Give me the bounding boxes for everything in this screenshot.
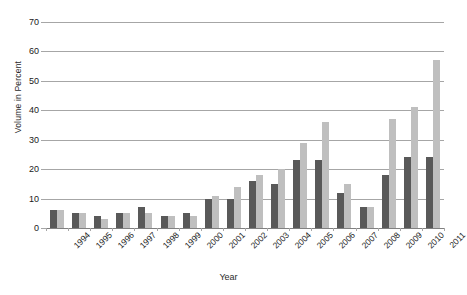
bar-group [333,22,355,228]
x-axis-tick-mark [68,228,69,231]
y-axis-title: Volume in Percent [13,27,23,167]
x-axis-tick-label: 1994 [72,230,92,250]
bar [168,216,175,228]
bar [94,216,101,228]
bar [433,60,440,228]
x-axis-tick-label: 2011 [447,230,467,250]
x-axis-tick-label: 2006 [337,230,357,250]
bar [190,216,197,228]
y-axis-tick-label: 60 [29,46,39,56]
x-axis-tick-label: 2001 [226,230,246,250]
bar-group [157,22,179,228]
y-axis-tick-label: 30 [29,135,39,145]
x-axis-tick-label: 1999 [182,230,202,250]
y-axis-tick-label: 20 [29,164,39,174]
y-axis-tick-label: 70 [29,17,39,27]
bar [57,210,64,228]
bar-group [134,22,156,228]
bar-group [311,22,333,228]
x-axis-tick-mark [422,228,423,231]
x-axis-tick-mark [46,228,47,231]
x-axis-tick-label: 2003 [271,230,291,250]
x-axis-tick-label: 2008 [381,230,401,250]
x-axis-tick-label: 2010 [425,230,445,250]
bar [411,107,418,228]
x-axis-tick-label: 1997 [138,230,158,250]
bar [382,175,389,228]
bar [145,213,152,228]
bar-series-container [46,22,444,228]
bar [234,187,241,228]
bar [212,196,219,228]
x-axis-tick-label: 2007 [359,230,379,250]
x-axis-tick-mark [157,228,158,231]
bar [205,199,212,228]
bar [50,210,57,228]
bar [249,181,256,228]
x-axis-title: Year [0,272,457,282]
x-axis-tick-mark [311,228,312,231]
x-axis-tick-label: 1998 [160,230,180,250]
x-axis-tick-label: 2004 [293,230,313,250]
bar [293,160,300,228]
bar-group [267,22,289,228]
bar [344,184,351,228]
bar [322,122,329,228]
bar [116,213,123,228]
x-axis-tick-label: 2005 [315,230,335,250]
bar-group [245,22,267,228]
bar [278,169,285,228]
bar [404,157,411,228]
x-axis-tick-mark [267,228,268,231]
bar [300,143,307,228]
x-axis-tick-mark [201,228,202,231]
plot-area: 010203040506070 [46,22,444,228]
bar-group [90,22,112,228]
x-axis-tick-mark [134,228,135,231]
bar-group [400,22,422,228]
x-axis-tick-mark [245,228,246,231]
y-axis-tick-label: 40 [29,105,39,115]
bar-group [46,22,68,228]
bar [389,119,396,228]
bar [367,207,374,228]
x-axis-tick-label: 1996 [116,230,136,250]
x-axis-tick-mark [289,228,290,231]
bar-group [179,22,201,228]
x-axis-tick-label: 1995 [94,230,114,250]
y-axis-tick-label: 10 [29,194,39,204]
bar-group [112,22,134,228]
bar [161,216,168,228]
bar-group [356,22,378,228]
bar [183,213,190,228]
bar [256,175,263,228]
bar-group [201,22,223,228]
bar [123,213,130,228]
x-axis-tick-label: 2002 [248,230,268,250]
bar [227,199,234,228]
bar [138,207,145,228]
bar-group [68,22,90,228]
bar [426,157,433,228]
x-axis-tick-mark [112,228,113,231]
x-axis-tick-labels: 1994199519961997199819992000200120022003… [46,230,444,270]
x-axis-tick-mark [223,228,224,231]
bar [101,219,108,228]
bar [360,207,367,228]
bar-group [223,22,245,228]
bar-group [422,22,444,228]
bar-group [378,22,400,228]
x-axis-tick-label: 2009 [403,230,423,250]
bar [337,193,344,228]
y-axis-tick-label: 50 [29,76,39,86]
x-axis-tick-mark [400,228,401,231]
x-axis-tick-label: 2000 [204,230,224,250]
x-axis-tick-mark [90,228,91,231]
bar [72,213,79,228]
x-axis-tick-mark [179,228,180,231]
x-axis-tick-mark [333,228,334,231]
x-axis-tick-mark [378,228,379,231]
y-axis-tick-label: 0 [34,223,39,233]
x-axis-tick-mark [444,228,445,231]
